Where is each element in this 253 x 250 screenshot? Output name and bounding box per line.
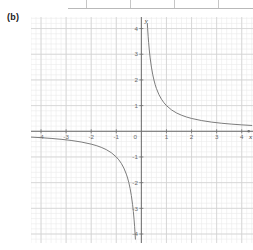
axis-lines xyxy=(31,17,253,243)
x-tick-label: 4 xyxy=(240,133,244,140)
y-tick-label: 1 xyxy=(134,102,138,109)
x-tick-label: 1 xyxy=(165,133,169,140)
table-column-divider xyxy=(174,0,175,8)
y-tick-label: -1 xyxy=(132,153,138,160)
grid-major-lines xyxy=(31,17,253,243)
x-tick-label: -2 xyxy=(88,133,94,140)
table-column-divider xyxy=(218,0,219,8)
hyperbola-plot: -4-3-2-101234-4-3-2-11234 xy xyxy=(31,17,253,243)
y-tick-label: -4 xyxy=(132,230,138,237)
grid-minor-lines xyxy=(31,17,253,243)
x-tick-label: 0 xyxy=(133,133,137,140)
table-column-divider xyxy=(86,0,87,8)
y-tick-label: 4 xyxy=(134,25,138,32)
y-tick-label: -3 xyxy=(132,205,138,212)
table-column-divider xyxy=(130,0,131,8)
x-tick-label: 3 xyxy=(215,133,219,140)
x-axis-label: x xyxy=(248,133,253,141)
table-border-fragment xyxy=(68,0,253,9)
x-tick-label: -1 xyxy=(114,133,120,140)
x-tick-label: -4 xyxy=(38,133,44,140)
y-tick-label: 3 xyxy=(134,50,138,57)
plot-svg: -4-3-2-101234-4-3-2-11234 xy xyxy=(31,17,253,243)
x-tick-label: 2 xyxy=(190,133,194,140)
y-tick-label: -2 xyxy=(132,179,138,186)
y-tick-label: 2 xyxy=(134,76,138,83)
figure-panel-label: (b) xyxy=(7,13,19,22)
x-tick-label: -3 xyxy=(63,133,69,140)
